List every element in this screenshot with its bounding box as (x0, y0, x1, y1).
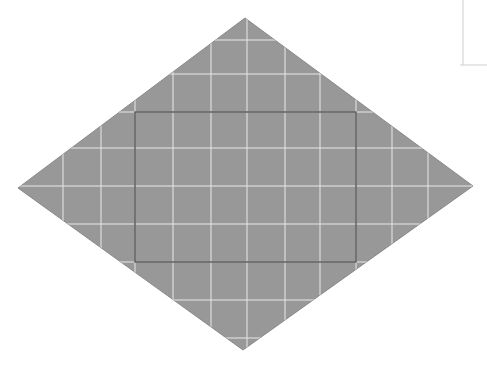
top-right-corner-mark (460, 0, 487, 65)
figure-canvas (0, 0, 487, 367)
geometry-figure (0, 0, 487, 367)
